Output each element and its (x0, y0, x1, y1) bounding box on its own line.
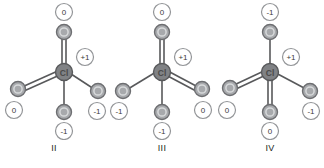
charge-bubble-center: +1 (283, 49, 300, 66)
charge-label-center: +1 (80, 53, 90, 62)
oxygen-atom-right (303, 84, 318, 99)
charge-label-bottom: -1 (158, 127, 166, 136)
charge-bubble-bottom: 0 (262, 123, 279, 140)
charge-label-left: -1 (115, 107, 123, 116)
charge-bubble-top: 0 (154, 4, 171, 21)
charge-label-left: 0 (225, 106, 230, 115)
resonance-structures-figure: Cl 0 0 -1 -1 +1 II (0, 0, 324, 168)
structure-label: IV (216, 143, 324, 153)
charge-bubble-bottom: -1 (56, 123, 73, 140)
charge-bubble-top: 0 (56, 4, 73, 21)
charge-bubble-left: -1 (111, 103, 128, 120)
charge-label-top: 0 (160, 8, 165, 17)
charge-label-center: +1 (286, 53, 296, 62)
oxygen-atom-bottom (263, 105, 278, 120)
charge-bubble-top: -1 (262, 4, 279, 21)
structure-label: III (108, 143, 216, 153)
charge-bubble-right: 0 (195, 102, 212, 119)
charge-label-top: 0 (62, 8, 67, 17)
oxygen-atom-top (57, 25, 72, 40)
charge-label-right: 0 (201, 106, 206, 115)
central-atom: Cl (262, 64, 279, 81)
charge-bubble-right: -1 (303, 103, 320, 120)
structure-diagram: Cl -1 0 -1 0 +1 (216, 0, 324, 140)
charge-label-bottom: 0 (268, 127, 273, 136)
structure-diagram: Cl 0 0 -1 -1 +1 (0, 0, 108, 140)
central-atom: Cl (56, 64, 73, 81)
charge-bubble-center: +1 (77, 49, 94, 66)
charge-label-top: -1 (266, 8, 274, 17)
resonance-structure: Cl -1 0 -1 0 +1 IV (216, 0, 324, 168)
charge-bubble-bottom: -1 (154, 123, 171, 140)
structure-diagram: Cl 0 -1 0 -1 +1 (108, 0, 216, 140)
charge-label-left: 0 (12, 106, 17, 115)
charge-bubble-center: +1 (175, 49, 192, 66)
bond-left (128, 72, 156, 89)
oxygen-atom-left (116, 84, 131, 99)
oxygen-atom-bottom (155, 105, 170, 120)
charge-label-center: +1 (178, 53, 188, 62)
central-atom-label: Cl (266, 68, 275, 78)
charge-bubble-left: 0 (219, 102, 236, 119)
oxygen-atom-right (195, 82, 210, 97)
central-atom-label: Cl (158, 68, 167, 78)
oxygen-atom-top (155, 25, 170, 40)
charge-label-bottom: -1 (60, 127, 68, 136)
resonance-structure: Cl 0 0 -1 -1 +1 II (0, 0, 108, 168)
charge-bubble-right: -1 (89, 103, 106, 120)
oxygen-atom-left (11, 82, 26, 97)
central-atom: Cl (154, 64, 171, 81)
resonance-structure: Cl 0 -1 0 -1 +1 III (108, 0, 216, 168)
oxygen-atom-left (223, 81, 238, 96)
charge-label-right: -1 (307, 107, 315, 116)
central-atom-label: Cl (60, 68, 69, 78)
oxygen-atom-right (91, 84, 106, 99)
charge-bubble-left: 0 (6, 102, 23, 119)
oxygen-atom-bottom (57, 105, 72, 120)
oxygen-atom-top (263, 25, 278, 40)
charge-label-right: -1 (93, 107, 101, 116)
structure-label: II (0, 143, 108, 153)
